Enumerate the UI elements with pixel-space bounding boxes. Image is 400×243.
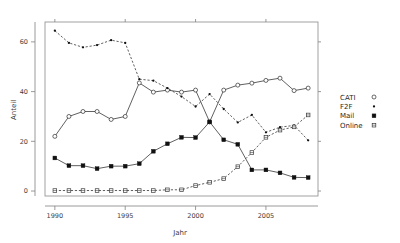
marker-open-circle	[278, 76, 282, 80]
marker-dot	[279, 126, 281, 128]
marker-dot	[54, 30, 56, 32]
line-chart: 1990199520002005 0204060 CATIF2FMailOnli…	[0, 0, 400, 243]
marker-filled-square	[222, 138, 226, 142]
marker-dot	[82, 46, 84, 48]
marker-filled-square	[194, 136, 198, 140]
marker-filled-square	[372, 114, 376, 118]
marker-open-circle	[67, 114, 71, 118]
marker-filled-square	[306, 176, 310, 180]
marker-filled-square	[95, 167, 99, 171]
marker-filled-square	[264, 168, 268, 172]
marker-dot	[110, 39, 112, 41]
marker-filled-square	[109, 164, 113, 168]
y-tick-label: 40	[20, 88, 28, 96]
marker-dot	[307, 139, 309, 141]
x-tick-label: 1990	[47, 212, 64, 220]
marker-filled-square	[250, 168, 254, 172]
marker-filled-square	[123, 164, 127, 168]
marker-dot	[166, 87, 168, 89]
y-tick-label: 20	[20, 138, 28, 146]
x-tick-label: 2005	[258, 212, 275, 220]
marker-open-circle	[372, 95, 376, 99]
marker-dot	[223, 108, 225, 110]
marker-filled-square	[81, 164, 85, 168]
marker-open-circle	[264, 78, 268, 82]
y-tick-label: 0	[24, 187, 28, 195]
marker-dot	[138, 78, 140, 80]
marker-filled-square	[180, 135, 184, 139]
marker-filled-square	[208, 120, 212, 124]
marker-open-circle	[236, 83, 240, 87]
marker-open-circle	[194, 88, 198, 92]
legend-marker-cati	[372, 95, 376, 99]
marker-open-circle	[109, 117, 113, 121]
marker-filled-square	[53, 156, 57, 160]
marker-open-circle	[95, 109, 99, 113]
marker-filled-square	[137, 162, 141, 166]
marker-dot	[373, 105, 375, 107]
x-tick-label: 1995	[117, 212, 134, 220]
marker-open-circle	[53, 134, 57, 138]
y-tick-label: 60	[20, 38, 28, 46]
marker-filled-square	[292, 175, 296, 179]
marker-filled-square	[278, 171, 282, 175]
marker-dot	[265, 131, 267, 133]
marker-dot	[251, 114, 253, 116]
marker-open-circle	[81, 109, 85, 113]
marker-open-circle	[222, 88, 226, 92]
marker-dot	[237, 121, 239, 123]
legend-marker-mail	[372, 114, 376, 118]
legend-marker-online	[372, 123, 376, 127]
marker-open-circle	[306, 86, 310, 90]
marker-open-circle	[180, 90, 184, 94]
y-axis-label: Anteil	[10, 100, 18, 120]
marker-filled-square	[67, 164, 71, 168]
marker-dot	[124, 42, 126, 44]
chart-root: 1990199520002005 0204060 CATIF2FMailOnli…	[0, 0, 400, 243]
legend-label-cati: CATI	[340, 94, 355, 102]
marker-dot	[152, 80, 154, 82]
marker-filled-square	[166, 142, 170, 146]
x-axis-label: Jahr	[172, 229, 187, 237]
legend-marker-f2f	[373, 105, 375, 107]
marker-filled-square	[236, 142, 240, 146]
marker-open-circle	[151, 90, 155, 94]
marker-open-circle	[137, 81, 141, 85]
marker-filled-square	[151, 149, 155, 153]
marker-dot	[96, 44, 98, 46]
legend-label-online: Online	[340, 122, 363, 130]
x-tick-label: 2000	[187, 212, 204, 220]
marker-dot	[194, 105, 196, 107]
legend-label-f2f: F2F	[340, 103, 353, 111]
marker-dot	[208, 93, 210, 95]
marker-dot	[180, 95, 182, 97]
marker-open-circle	[292, 89, 296, 93]
marker-open-circle	[250, 81, 254, 85]
marker-dot	[68, 42, 70, 44]
legend-label-mail: Mail	[340, 112, 354, 120]
marker-open-circle	[123, 114, 127, 118]
